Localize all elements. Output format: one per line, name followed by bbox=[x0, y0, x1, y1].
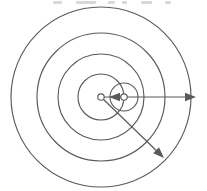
origin-point-marker bbox=[98, 94, 104, 100]
concentric-circles-figure bbox=[0, 0, 207, 191]
diagram-canvas bbox=[0, 0, 207, 191]
secondary-point-marker bbox=[121, 94, 127, 100]
diagonal-vector-down-right-line bbox=[101, 97, 160, 154]
